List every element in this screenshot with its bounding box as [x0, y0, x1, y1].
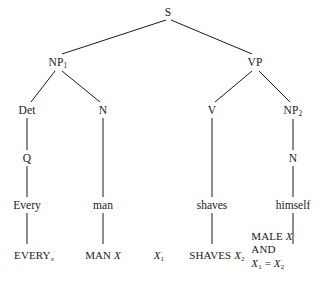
- tree-node-vp-label: VP: [247, 56, 262, 68]
- tree-edge-vp-to-np2: [259, 71, 290, 102]
- tree-node-np2: NP2: [284, 104, 303, 116]
- subscript: 1: [258, 263, 262, 271]
- tree-node-vp: VP: [247, 56, 262, 68]
- smallcaps-run: AND: [251, 243, 275, 255]
- tree-edge-np1-to-det: [31, 71, 55, 102]
- italic-run: X: [286, 230, 293, 242]
- text-run: =: [262, 257, 274, 269]
- logical-form-line-1: MALE X: [251, 230, 292, 243]
- tree-node-v: V: [208, 104, 217, 116]
- smallcaps-run: MAN: [85, 249, 111, 261]
- tree-node-s: S: [165, 6, 172, 18]
- terminal-word-himself: himself: [276, 199, 311, 211]
- tree-edge-vp-to-v: [215, 71, 252, 102]
- tree-edge-np1-to-n1: [62, 71, 100, 102]
- subscript: x: [51, 255, 54, 263]
- syntax-tree-diagram: S NP1 VP Det N V NP2 Q N Everymanshavesh…: [0, 0, 327, 296]
- logical-form-man: MAN X: [85, 250, 121, 262]
- smallcaps-run: EVERY: [14, 249, 51, 261]
- tree-node-n2-label: N: [289, 152, 298, 164]
- logical-form-shaves: SHAVES X2: [189, 250, 244, 262]
- subscript: 2: [281, 263, 285, 271]
- tree-node-n1-label: N: [99, 104, 108, 116]
- tree-node-s-label: S: [165, 6, 172, 18]
- tree-node-q-label: Q: [23, 152, 32, 164]
- subscript: 2: [241, 255, 245, 263]
- italic-run: X: [154, 249, 161, 261]
- logical-form-every: EVERYx: [14, 250, 54, 262]
- tree-node-np1-label: NP: [49, 56, 64, 68]
- terminal-word-every: Every: [13, 199, 40, 211]
- tree-node-n2: N: [289, 152, 298, 164]
- terminal-word-shaves: shaves: [197, 199, 228, 211]
- terminal-word-man: man: [93, 199, 113, 211]
- logical-form-line-3: X1 = X2: [251, 257, 292, 270]
- logical-form-male-and-identity: MALE XANDX1 = X2: [251, 230, 292, 270]
- logical-form-line-2: AND: [251, 243, 292, 256]
- italic-run: X: [234, 249, 241, 261]
- tree-node-det-label: Det: [18, 104, 35, 116]
- tree-node-np1: NP1: [49, 56, 68, 68]
- smallcaps-run: SHAVES: [189, 249, 231, 261]
- tree-node-n1: N: [99, 104, 108, 116]
- tree-edge-s-to-vp: [171, 20, 252, 54]
- logical-form-x1: X1: [154, 250, 164, 262]
- italic-run: X: [114, 249, 121, 261]
- tree-edge-s-to-np1: [62, 20, 166, 54]
- tree-node-v-label: V: [208, 104, 217, 116]
- tree-node-q: Q: [23, 152, 32, 164]
- italic-run: X: [251, 257, 258, 269]
- tree-node-np1-subscript: 1: [64, 61, 68, 70]
- subscript: 1: [161, 255, 165, 263]
- smallcaps-run: MALE: [251, 230, 283, 242]
- tree-node-np2-label: NP: [284, 104, 299, 116]
- tree-node-det: Det: [18, 104, 35, 116]
- tree-node-np2-subscript: 2: [299, 109, 303, 118]
